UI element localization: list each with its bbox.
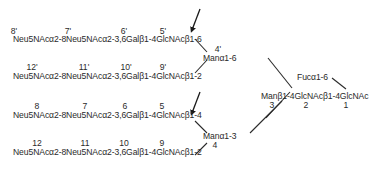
glycan-chain: Neu5NAcα2-8Neu5NAcα2-3,6Galβ1-4GlcNAcβ1-… <box>13 110 202 120</box>
mannose-upper-label: Manα1-6 <box>203 53 236 63</box>
fucose-label: Fucα1-6 <box>297 72 328 82</box>
glycan-chain: Neu5NAcα2-8Neu5NAcα2-3,6Galβ1-4GlcNAcβ1-… <box>13 71 202 81</box>
residue-number: 4 <box>203 140 227 150</box>
residue-number: 3 <box>260 100 284 110</box>
glycan-chain: Neu5NAcα2-8Neu5NAcα2-3,6Galβ1-4GlcNAcβ1-… <box>13 34 202 44</box>
residue-number: 2 <box>294 100 318 110</box>
glycan-chain: Neu5NAcα2-8Neu5NAcα2-3,6Galβ1-4GlcNAcβ1-… <box>13 147 202 157</box>
residue-number: 1 <box>334 100 358 110</box>
arrow-icons <box>192 9 200 113</box>
